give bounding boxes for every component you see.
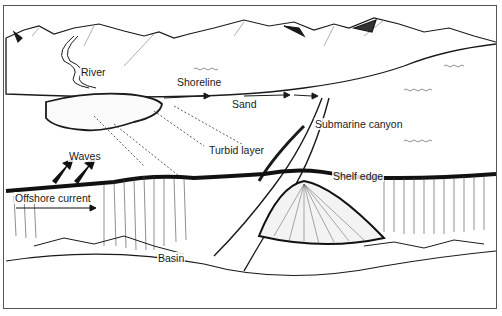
slope-hatching bbox=[14, 176, 484, 250]
label-waves: Waves bbox=[68, 150, 102, 162]
submarine-fan bbox=[259, 181, 384, 244]
label-river: River bbox=[80, 66, 107, 78]
label-submarine-canyon: Submarine canyon bbox=[314, 118, 404, 130]
delta bbox=[46, 94, 162, 131]
label-basin: Basin bbox=[157, 252, 185, 264]
label-offshore-current: Offshore current bbox=[14, 192, 92, 204]
label-turbid-layer: Turbid layer bbox=[208, 144, 265, 156]
river bbox=[62, 36, 96, 88]
diagram-frame: River Shoreline Sand Submarine canyon Tu… bbox=[3, 5, 497, 309]
offshore-current-arrow bbox=[16, 205, 96, 211]
label-sand: Sand bbox=[231, 98, 258, 110]
label-shoreline: Shoreline bbox=[176, 76, 222, 88]
label-shelf-edge: Shelf edge bbox=[332, 170, 384, 182]
basin-floor bbox=[6, 251, 496, 276]
